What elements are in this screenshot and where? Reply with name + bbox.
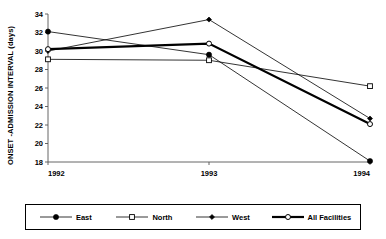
data-point-marker <box>130 215 135 220</box>
y-axis-tick-label: 20 <box>35 139 43 148</box>
legend-item-north[interactable]: North <box>105 211 184 223</box>
legend-marker-filled-circle-icon <box>39 211 73 223</box>
y-axis-tick-label: 22 <box>35 121 43 130</box>
legend-item-all-facilities[interactable]: All Facilities <box>262 211 360 223</box>
plot-area: 182022242628303234199219931994 <box>22 8 378 194</box>
legend-item-label: All Facilities <box>308 213 352 222</box>
data-point-marker <box>207 41 212 46</box>
legend-item-west[interactable]: West <box>183 211 262 223</box>
y-axis-tick-label: 26 <box>35 84 43 93</box>
data-point-marker <box>367 158 372 163</box>
series-line <box>48 59 370 86</box>
y-axis-tick-label: 28 <box>35 65 43 74</box>
series-north <box>46 57 373 89</box>
y-axis-tick-label: 18 <box>35 158 43 167</box>
data-point-marker <box>368 84 373 89</box>
line-chart-svg: 182022242628303234199219931994 <box>22 8 378 194</box>
data-point-marker <box>46 57 51 62</box>
x-axis-tick-label: 1993 <box>201 169 218 178</box>
data-point-marker <box>45 29 50 34</box>
data-point-marker <box>46 47 51 52</box>
data-point-marker <box>206 52 211 57</box>
data-point-marker <box>367 116 372 121</box>
legend-item-label: West <box>232 213 250 222</box>
series-west <box>45 17 372 121</box>
y-axis-tick-label: 32 <box>35 28 43 37</box>
data-point-marker <box>206 17 211 22</box>
legend-item-label: North <box>152 213 172 222</box>
data-point-marker <box>368 122 373 127</box>
x-axis-tick-label: 1992 <box>48 169 65 178</box>
legend-item-label: East <box>76 213 92 222</box>
chart-figure: ONSET -ADMISSION INTERVAL (days) 1820222… <box>0 0 386 239</box>
series-line <box>48 20 370 119</box>
data-point-marker <box>53 214 58 219</box>
series-line <box>48 32 370 162</box>
legend-marker-open-square-icon <box>115 211 149 223</box>
legend-marker-small-filled-diamond-icon <box>195 211 229 223</box>
x-axis-tick-label: 1994 <box>353 169 371 178</box>
legend-item-east[interactable]: East <box>26 211 105 223</box>
y-axis-tick-label: 34 <box>35 10 44 19</box>
series-east <box>45 29 372 164</box>
data-point-marker <box>207 58 212 63</box>
chart-legend: EastNorthWestAll Facilities <box>25 204 361 230</box>
y-axis-title: ONSET -ADMISSION INTERVAL (days) <box>7 25 16 164</box>
y-axis-title-container: ONSET -ADMISSION INTERVAL (days) <box>0 0 22 190</box>
data-point-marker <box>210 214 215 219</box>
data-point-marker <box>285 215 290 220</box>
y-axis-tick-label: 24 <box>35 102 44 111</box>
y-axis-tick-label: 30 <box>35 47 43 56</box>
legend-marker-open-circle-icon <box>271 211 305 223</box>
